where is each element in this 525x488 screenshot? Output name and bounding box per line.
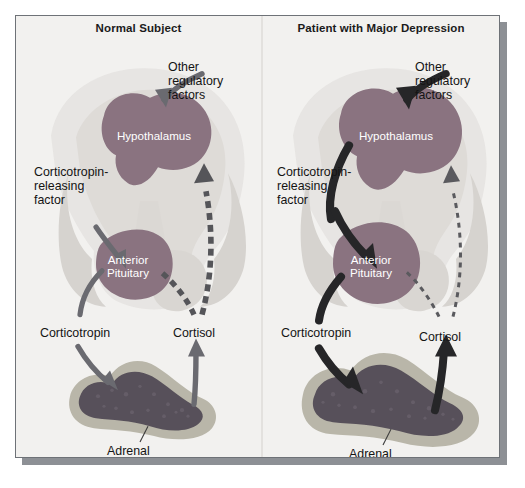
label-hypothalamus-depression: Hypothalamus bbox=[341, 129, 451, 142]
label-corticotropin-depression: Corticotropin bbox=[281, 326, 351, 340]
label-cortisol-normal: Cortisol bbox=[173, 326, 215, 340]
figure-frame: Normal Subject bbox=[15, 15, 500, 458]
label-hypothalamus-normal: Hypothalamus bbox=[100, 129, 208, 142]
label-anterior-pituitary-normal: Anterior Pituitary bbox=[90, 253, 166, 279]
label-adrenal-cortex-normal: Adrenal cortex bbox=[107, 444, 150, 458]
anatomy-illustration-normal bbox=[16, 16, 261, 457]
panel-normal-subject: Normal Subject bbox=[16, 16, 261, 457]
label-cortisol-depression: Cortisol bbox=[419, 330, 461, 344]
panel-major-depression: Patient with Major Depression bbox=[263, 16, 499, 457]
label-crf-normal: Corticotropin- releasing factor bbox=[34, 165, 108, 207]
label-crf-depression: Corticotropin- releasing factor bbox=[277, 165, 351, 207]
label-adrenal-cortex-depression: Adrenal cortex bbox=[349, 447, 392, 458]
label-anterior-pituitary-depression: Anterior Pituitary bbox=[333, 253, 409, 279]
label-other-regulatory-factors-depression: Other regulatory factors bbox=[415, 60, 470, 102]
label-corticotropin-normal: Corticotropin bbox=[40, 326, 110, 340]
label-other-regulatory-factors-normal: Other regulatory factors bbox=[168, 60, 223, 102]
hpa-axis-figure: Normal Subject bbox=[0, 0, 525, 488]
